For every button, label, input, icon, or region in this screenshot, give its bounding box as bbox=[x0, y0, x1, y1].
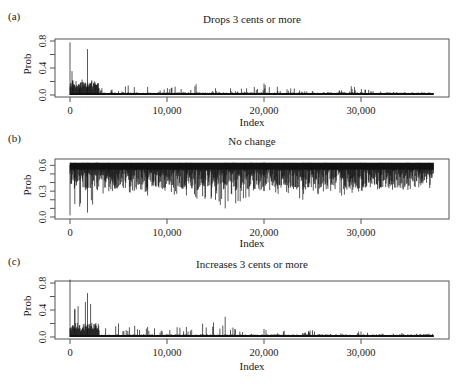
svg-text:0: 0 bbox=[67, 347, 72, 358]
svg-text:20,000: 20,000 bbox=[250, 347, 279, 358]
svg-text:0.4: 0.4 bbox=[37, 304, 48, 317]
svg-text:0.8: 0.8 bbox=[37, 277, 48, 290]
svg-text:20,000: 20,000 bbox=[250, 105, 279, 116]
plot-area: 0.00.40.8Prob010,00020,00030,000 bbox=[0, 0, 470, 130]
svg-text:Prob: Prob bbox=[21, 174, 33, 195]
svg-text:0.0: 0.0 bbox=[37, 89, 48, 102]
svg-text:0.6: 0.6 bbox=[37, 159, 48, 172]
svg-text:0.8: 0.8 bbox=[37, 35, 48, 48]
svg-text:10,000: 10,000 bbox=[153, 105, 182, 116]
panel-a: (a) Drops 3 cents or more 0.00.40.8Prob0… bbox=[0, 0, 470, 130]
plot-area: 0.00.30.6Prob010,00020,00030,000 bbox=[0, 122, 470, 252]
svg-text:0.0: 0.0 bbox=[37, 331, 48, 344]
plot-area: 0.00.40.8Prob010,00020,00030,000 bbox=[0, 245, 470, 375]
svg-text:0: 0 bbox=[67, 105, 72, 116]
svg-text:Prob: Prob bbox=[21, 53, 33, 74]
panel-c: (c) Increases 3 cents or more 0.00.40.8P… bbox=[0, 245, 470, 390]
x-axis-label: Index bbox=[55, 360, 449, 372]
panel-b: (b) No change 0.00.30.6Prob010,00020,000… bbox=[0, 122, 470, 252]
svg-text:Prob: Prob bbox=[21, 295, 33, 316]
svg-text:10,000: 10,000 bbox=[153, 347, 182, 358]
svg-text:0.3: 0.3 bbox=[37, 185, 48, 198]
svg-text:30,000: 30,000 bbox=[347, 105, 376, 116]
svg-text:0.4: 0.4 bbox=[37, 62, 48, 75]
svg-text:0.0: 0.0 bbox=[37, 211, 48, 224]
svg-text:30,000: 30,000 bbox=[347, 347, 376, 358]
